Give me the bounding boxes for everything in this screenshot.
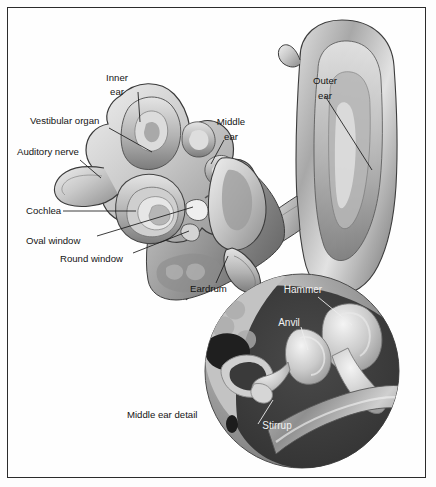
- label-outer-ear-line2: ear: [318, 90, 333, 101]
- label-inner-ear-line1: Inner: [106, 72, 129, 83]
- label-eardrum: Eardrum: [190, 283, 227, 294]
- middle-ear-detail-inset: [204, 274, 420, 469]
- oval-window: [186, 200, 208, 221]
- label-stirrup: Stirrup: [262, 420, 292, 431]
- label-round-window: Round window: [60, 253, 123, 264]
- label-outer-ear-line1: Outer: [313, 75, 338, 86]
- vestibule-core: [144, 122, 160, 142]
- ear-anatomy-figure: Inner ear Vestibular organ Auditory nerv…: [0, 0, 436, 487]
- label-inner-ear-line2: ear: [110, 86, 125, 97]
- helix-hook: [278, 45, 300, 67]
- foramen-opening: [226, 415, 238, 433]
- label-cochlea: Cochlea: [26, 205, 62, 216]
- label-middle-ear-detail: Middle ear detail: [127, 409, 197, 420]
- label-middle-ear-line2: ear: [224, 131, 239, 142]
- label-anvil: Anvil: [278, 317, 300, 328]
- label-auditory-nerve: Auditory nerve: [17, 146, 79, 157]
- ear-anatomy-illustration: Inner ear Vestibular organ Auditory nerv…: [0, 0, 436, 487]
- label-oval-window: Oval window: [26, 235, 80, 246]
- label-middle-ear-line1: Middle: [217, 116, 245, 127]
- label-hammer: Hammer: [284, 284, 323, 295]
- bone-cell-a: [166, 264, 183, 279]
- label-vestibular-organ: Vestibular organ: [30, 115, 99, 126]
